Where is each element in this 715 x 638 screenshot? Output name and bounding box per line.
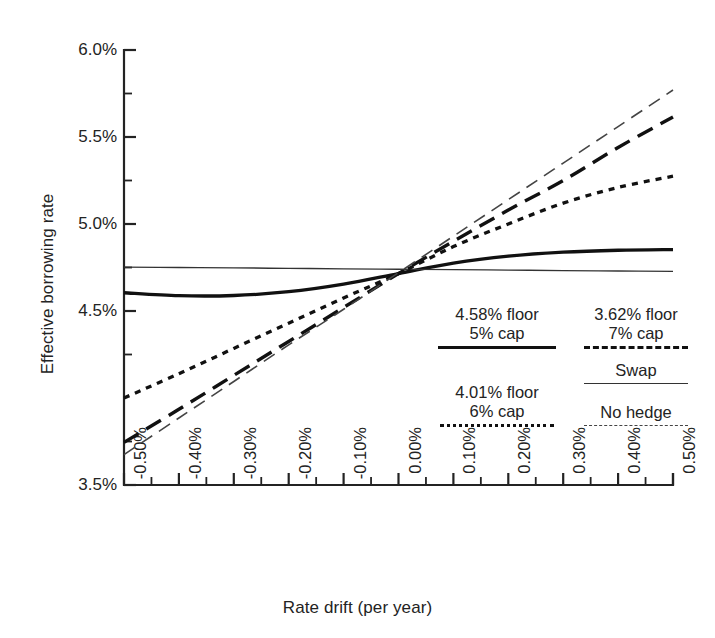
legend-swatch-solid-thin bbox=[584, 383, 688, 384]
legend-swatch-solid-thick bbox=[438, 346, 556, 349]
legend-label-line2: 5% cap bbox=[432, 324, 562, 343]
legend-label-line1: 4.01% floor bbox=[432, 383, 562, 402]
legend-item: 3.62% floor7% cap bbox=[572, 305, 700, 349]
chart-container: Effective borrowing rate 6.0%5.5%5.0%4.5… bbox=[0, 0, 715, 638]
legend-swatch-dotted bbox=[440, 424, 554, 427]
legend-item: 4.01% floor6% cap bbox=[432, 383, 562, 427]
chart-legend: 4.58% floor5% cap3.62% floor7% capSwap4.… bbox=[432, 305, 700, 475]
legend-label-line2: Swap bbox=[572, 361, 700, 380]
series-line bbox=[124, 267, 673, 271]
legend-item: No hedge bbox=[572, 403, 700, 426]
legend-label-line2: No hedge bbox=[572, 403, 700, 422]
legend-item: 4.58% floor5% cap bbox=[432, 305, 562, 349]
legend-label-line1: 3.62% floor bbox=[572, 305, 700, 324]
legend-label-line1: 4.58% floor bbox=[432, 305, 562, 324]
legend-label-line2: 7% cap bbox=[572, 324, 700, 343]
legend-label-line2: 6% cap bbox=[432, 402, 562, 421]
legend-swatch-dashed-thin bbox=[584, 425, 688, 426]
legend-swatch-dashed-thick bbox=[584, 346, 688, 349]
legend-item: Swap bbox=[572, 361, 700, 384]
